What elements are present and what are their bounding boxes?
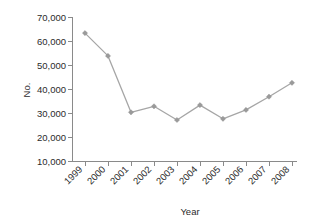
series-line [85, 33, 292, 120]
x-axis-title: Year [180, 206, 199, 217]
x-tick-label: 2005 [200, 164, 223, 187]
x-tick-label: 2004 [177, 164, 200, 187]
chart-canvas: No. 70,000 60,000 50,000 40,000 30,000 2… [0, 0, 313, 224]
data-series [82, 31, 294, 123]
y-tick-label: 60,000 [37, 36, 66, 47]
x-tick-label: 2001 [108, 164, 131, 187]
y-tick-label: 10,000 [37, 156, 66, 167]
x-tick-label: 2008 [269, 164, 292, 187]
y-tick-label: 50,000 [37, 60, 66, 71]
x-tick-label: 1999 [62, 164, 85, 187]
x-tick-label: 2003 [154, 164, 177, 187]
y-tick-label: 20,000 [37, 132, 66, 143]
data-point-marker [128, 110, 133, 115]
x-tick-label: 2000 [85, 164, 108, 187]
x-tick-label: 2006 [223, 164, 246, 187]
y-axis-title: No. [21, 83, 32, 98]
y-tick-label: 70,000 [37, 12, 66, 23]
x-tick-label: 2002 [131, 164, 154, 187]
x-tick-label: 2007 [246, 164, 269, 187]
y-tick-label: 30,000 [37, 108, 66, 119]
data-point-marker [243, 107, 248, 112]
y-tick-label: 40,000 [37, 84, 66, 95]
line-chart: No. 70,000 60,000 50,000 40,000 30,000 2… [0, 0, 313, 224]
